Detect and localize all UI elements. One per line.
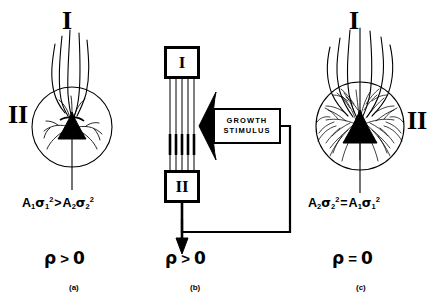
panel-c-formula-rhs-sig-sup: 2	[376, 195, 380, 204]
panel-c-soma	[343, 110, 377, 143]
panel-b-node-box-ii[interactable]: II	[164, 170, 200, 203]
rho-symbol-icon: ρ	[165, 248, 177, 268]
rho-symbol-icon: ρ	[332, 248, 344, 268]
panel-b-growth-stimulus-box[interactable]: GROWTH STIMULUS	[213, 108, 281, 144]
panel-c: I II	[290, 0, 437, 302]
panel-c-rho-value: 0	[361, 248, 373, 268]
panel-b-node-ii-label: II	[175, 177, 188, 197]
panel-a-formula-operator: >	[53, 196, 62, 210]
panel-b-node-i-label: I	[179, 53, 186, 73]
panel-a-rho-relation: >	[56, 250, 73, 267]
panel-a-formula: A1σ12>A2σ22	[22, 196, 94, 211]
panel-b-rho-relation: >	[177, 250, 194, 267]
panel-b-caption-label: (b)	[190, 284, 200, 292]
panel-b-node-box-i[interactable]: I	[164, 46, 200, 79]
panel-c-formula-rhs-amp: A	[349, 196, 358, 210]
panel-b-growth-stimulus-line2: STIMULUS	[223, 126, 270, 136]
panel-a: I II	[0, 0, 150, 302]
rho-symbol-icon: ρ	[44, 248, 56, 268]
panel-b-growth-stimulus-line1: GROWTH	[227, 116, 268, 126]
panel-c-rho-statement: ρ=0	[332, 250, 373, 267]
panel-a-caption-label: (a)	[69, 284, 79, 292]
sigma-icon: σ	[362, 195, 372, 210]
panel-c-formula: A2σ22=A1σ12	[308, 196, 380, 211]
sigma-icon: σ	[76, 195, 86, 210]
panel-a-formula-rhs-sig-sup: 2	[90, 195, 94, 204]
sigma-icon: σ	[35, 195, 45, 210]
panel-b: I II GROWTH STIMULUS ρ>0 (b)	[140, 0, 300, 302]
panel-a-formula-rhs-amp: A	[63, 196, 72, 210]
panel-b-rho-value: 0	[194, 248, 206, 268]
figure-root: I II	[0, 0, 437, 302]
panel-c-formula-operator: =	[339, 196, 348, 210]
panel-b-output-arrow	[176, 203, 188, 254]
panel-c-formula-lhs-amp: A	[308, 196, 317, 210]
panel-a-formula-lhs-amp: A	[22, 196, 31, 210]
panel-c-caption-label: (c)	[356, 284, 366, 292]
panel-b-synaptic-zone	[170, 134, 194, 155]
panel-b-connection-lines	[170, 79, 194, 170]
panel-a-rho-statement: ρ>0	[44, 250, 85, 267]
panel-c-rho-relation: =	[344, 250, 361, 267]
panel-a-rho-value: 0	[73, 248, 85, 268]
sigma-icon: σ	[321, 195, 331, 210]
panel-b-rho-statement: ρ>0	[165, 250, 206, 267]
